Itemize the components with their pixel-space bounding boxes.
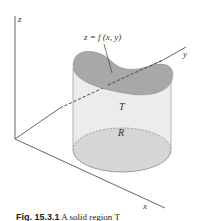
caption-number: Fig. 15.3.1 (16, 212, 60, 221)
x-axis-label: x (142, 201, 147, 211)
y-axis-label: y (182, 49, 187, 59)
figure-canvas: z y x z = f (x, y) T R (0, 0, 200, 221)
solid-region-figure: z y x z = f (x, y) T R Fig. 15.3.1 A sol… (0, 0, 200, 221)
region-label-r: R (117, 127, 124, 138)
caption-text: A solid region T (61, 212, 120, 221)
figure-caption: Fig. 15.3.1 A solid region T (16, 212, 200, 221)
y-axis-near (15, 108, 60, 139)
z-axis-label: z (17, 14, 22, 24)
surface-label: z = f (x, y) (83, 32, 121, 42)
